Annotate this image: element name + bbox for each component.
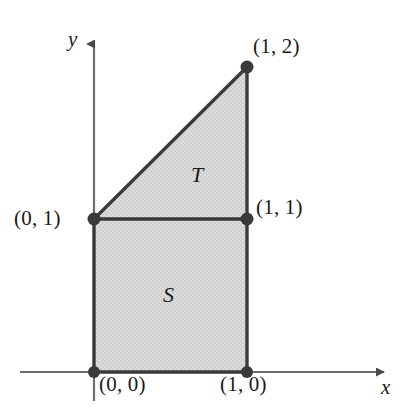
vertex-dot-1-1 xyxy=(241,213,254,226)
coordinate-label-0-1: (0, 1) xyxy=(14,208,61,229)
math-figure: y x (1, 2) (1, 1) (0, 1) (0, 0) (1, 0) S… xyxy=(0,0,403,417)
x-axis-label: x xyxy=(381,377,390,398)
coordinate-label-1-2: (1, 2) xyxy=(253,36,300,57)
coordinate-label-1-0: (1, 0) xyxy=(220,374,267,395)
coordinate-label-1-1: (1, 1) xyxy=(256,197,303,218)
coordinate-label-0-0: (0, 0) xyxy=(99,374,146,395)
region-label-t: T xyxy=(191,164,203,186)
vertex-dot-0-1 xyxy=(88,213,101,226)
vertex-dot-1-2 xyxy=(241,61,254,74)
region-label-s: S xyxy=(163,284,174,306)
y-axis-label: y xyxy=(68,29,77,50)
